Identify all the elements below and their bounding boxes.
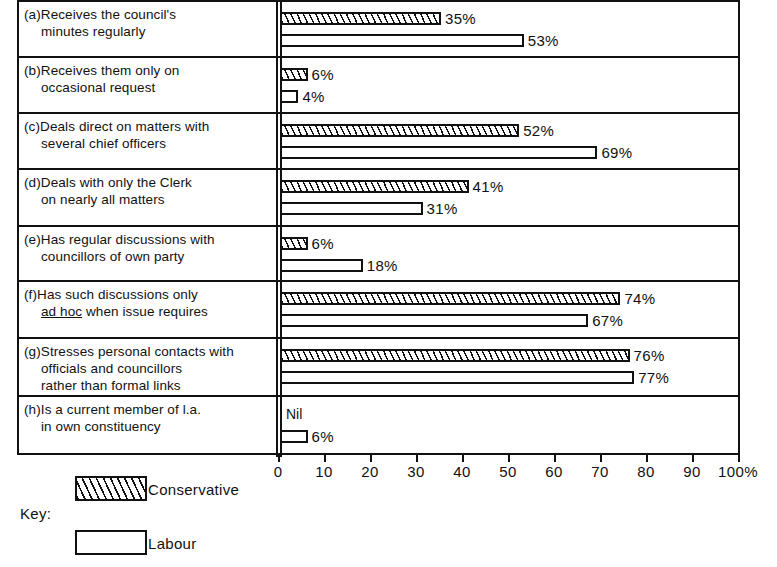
row-label-d: (d)Deals with only the Clerkon nearly al…	[19, 170, 278, 225]
row-plot-d: 41%31%	[280, 170, 738, 225]
axis-baseline	[280, 397, 282, 457]
bar-conservative-g	[280, 349, 630, 362]
row-label-line: (g)Stresses personal contacts with	[24, 343, 272, 360]
row-label-e: (e)Has regular discussions withcouncillo…	[19, 227, 278, 280]
axis-tick	[462, 455, 464, 462]
row-label-line: (h)Is a current member of l.a.	[24, 401, 272, 418]
bar-conservative-b	[280, 68, 308, 81]
bar-value-labour-g: 77%	[638, 370, 669, 385]
axis-tick	[646, 455, 648, 462]
bar-value-conservative-f: 74%	[624, 291, 655, 306]
legend-label-conservative: Conservative	[148, 482, 239, 498]
legend-key-label: Key:	[20, 506, 51, 522]
row-label-line: ad hoc when issue requires	[24, 303, 272, 320]
bar-value-labour-e: 18%	[367, 258, 398, 273]
axis-tick-label: 40	[453, 464, 471, 480]
bar-labour-d	[280, 202, 423, 215]
row-label-line: on nearly all matters	[24, 191, 272, 208]
row-label-h: (h)Is a current member of l.a.in own con…	[19, 397, 278, 457]
axis-tick-label: 90	[683, 464, 701, 480]
axis-baseline	[280, 58, 282, 112]
row-label-g: (g)Stresses personal contacts withoffici…	[19, 339, 278, 395]
bar-conservative-d	[280, 180, 469, 193]
bar-conservative-a	[280, 12, 441, 25]
bar-conservative-e	[280, 237, 308, 250]
row-label-f: (f)Has such discussions onlyad hoc when …	[19, 282, 278, 337]
row-label-line: rather than formal links	[24, 377, 272, 394]
axis-baseline	[280, 282, 282, 337]
bar-conservative-c	[280, 124, 519, 137]
bar-labour-e	[280, 259, 363, 272]
axis-tick	[600, 455, 602, 462]
axis-tick-label: 20	[361, 464, 379, 480]
bar-value-conservative-d: 41%	[473, 179, 504, 194]
axis-tick-label: 50	[499, 464, 517, 480]
axis-tick	[692, 455, 694, 462]
axis-tick	[278, 455, 280, 462]
axis-tick	[416, 455, 418, 462]
row-label-b: (b)Receives them only onoccasional reque…	[19, 58, 278, 112]
bar-labour-f	[280, 314, 588, 327]
legend-swatch-labour	[75, 530, 147, 555]
axis-tick	[738, 455, 740, 462]
axis-baseline	[280, 227, 282, 280]
bar-labour-g	[280, 371, 634, 384]
bar-value-conservative-c: 52%	[523, 123, 554, 138]
bar-labour-b	[280, 90, 298, 103]
bar-labour-c	[280, 146, 597, 159]
bar-value-conservative-e: 6%	[312, 236, 334, 251]
row-plot-g: 76%77%	[280, 339, 738, 395]
row-label-line: councillors of own party	[24, 248, 272, 265]
chart-row-g: (g)Stresses personal contacts withoffici…	[19, 339, 738, 397]
row-label-c: (c)Deals direct on matters withseveral c…	[19, 114, 278, 168]
x-axis: 0102030405060708090100%	[278, 455, 740, 491]
bar-conservative-f	[280, 292, 620, 305]
chart-row-b: (b)Receives them only onoccasional reque…	[19, 58, 738, 114]
row-label-line: (d)Deals with only the Clerk	[24, 174, 272, 191]
legend-label-labour: Labour	[148, 536, 197, 552]
chart-row-c: (c)Deals direct on matters withseveral c…	[19, 114, 738, 170]
axis-tick-label: 100%	[718, 464, 758, 480]
bar-labour-a	[280, 34, 524, 47]
chart-row-f: (f)Has such discussions onlyad hoc when …	[19, 282, 738, 339]
axis-tick	[324, 455, 326, 462]
axis-tick	[508, 455, 510, 462]
row-label-line: (f)Has such discussions only	[24, 286, 272, 303]
axis-tick-label: 60	[545, 464, 563, 480]
bar-labour-h	[280, 430, 308, 443]
row-plot-b: 6%4%	[280, 58, 738, 112]
axis-baseline	[280, 114, 282, 168]
bar-value-conservative-a: 35%	[445, 11, 476, 26]
row-label-line: (a)Receives the council's	[24, 6, 272, 23]
row-label-line: (b)Receives them only on	[24, 62, 272, 79]
row-label-line: officials and councillors	[24, 360, 272, 377]
bar-value-labour-d: 31%	[427, 201, 458, 216]
legend-swatch-conservative	[75, 476, 147, 501]
row-label-a: (a)Receives the council'sminutes regular…	[19, 2, 278, 56]
bar-value-labour-b: 4%	[302, 89, 324, 104]
row-plot-c: 52%69%	[280, 114, 738, 168]
chart-legend: Key: Conservative Labour	[20, 474, 320, 562]
row-label-line: (c)Deals direct on matters with	[24, 118, 272, 135]
row-label-line: (e)Has regular discussions with	[24, 231, 272, 248]
row-label-line: minutes regularly	[24, 23, 272, 40]
bar-value-labour-a: 53%	[528, 33, 559, 48]
axis-tick	[554, 455, 556, 462]
axis-tick-label: 80	[637, 464, 655, 480]
chart-row-e: (e)Has regular discussions withcouncillo…	[19, 227, 738, 282]
bar-value-labour-f: 67%	[592, 313, 623, 328]
axis-tick	[370, 455, 372, 462]
axis-tick-label: 30	[407, 464, 425, 480]
emphasis-ad-hoc: ad hoc	[41, 304, 82, 319]
axis-tick-label: 70	[591, 464, 609, 480]
axis-baseline	[280, 2, 282, 56]
row-label-line: in own constituency	[24, 418, 272, 435]
chart-row-d: (d)Deals with only the Clerkon nearly al…	[19, 170, 738, 227]
bar-value-labour-c: 69%	[601, 145, 632, 160]
bar-value-conservative-h: Nil	[286, 407, 302, 421]
row-label-line: occasional request	[24, 79, 272, 96]
chart-frame: (a)Receives the council'sminutes regular…	[17, 0, 740, 455]
axis-baseline	[280, 339, 282, 395]
row-plot-e: 6%18%	[280, 227, 738, 280]
bar-value-conservative-b: 6%	[312, 67, 334, 82]
